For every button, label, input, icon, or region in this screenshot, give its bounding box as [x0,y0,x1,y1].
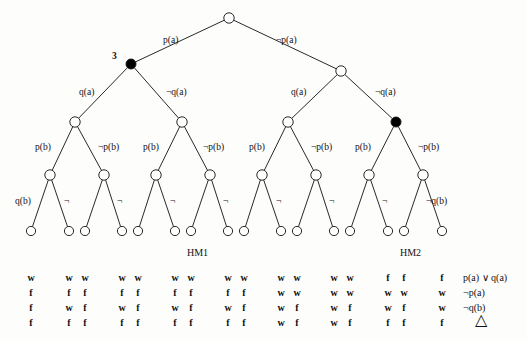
truth-cell: f [222,288,234,298]
truth-cell: w [222,303,234,313]
leaf-edge-label-le-neg-5: ¬ [276,197,281,207]
tree-node[interactable] [177,117,187,127]
truth-cell: w [344,288,356,298]
tree-node[interactable] [311,170,321,180]
truth-cell: f [291,318,303,328]
truth-cell: f [116,288,128,298]
truth-cell: f [291,303,303,313]
truth-cell: w [328,303,340,313]
tree-edge [139,180,154,227]
tree-node[interactable] [133,226,142,235]
tree-node[interactable] [117,226,126,235]
truth-cell: f [79,318,91,328]
leaf-edge-label-le-not-qb: ¬q(b) [426,197,447,207]
truth-cell: w [222,273,234,283]
leaf-edge-label-le-neg-2: ¬ [117,197,122,207]
truth-cell: f [25,318,37,328]
truth-cell: f [382,318,394,328]
tree-node[interactable] [205,170,215,180]
edge-label-el-pa: p(a) [163,36,178,46]
truth-cell: f [222,318,234,328]
truth-cell: w [25,273,37,283]
truth-cell: w [398,288,410,298]
tree-node[interactable] [364,170,374,180]
truth-cell: f [169,288,181,298]
truth-cell: w [63,273,75,283]
edge-label-el-not-qa-1: ¬q(a) [166,88,187,98]
edge-label-el-not-pa: ¬p(a) [276,36,297,46]
edge-label-el-qa-1: q(a) [79,88,94,98]
tree-node-marked[interactable] [391,117,401,127]
truth-cell: w [169,273,181,283]
truth-cell: f [116,318,128,328]
edge-label-el-not-pb-1: ¬p(b) [98,143,119,153]
tree-node[interactable] [276,226,285,235]
tree-edge [245,180,260,227]
truth-cell: f [132,303,144,313]
tree-edge [351,180,367,227]
truth-cell: f [398,318,410,328]
tree-node[interactable] [99,170,109,180]
tree-node[interactable] [257,170,267,180]
tree-node[interactable] [64,226,73,235]
tree-node[interactable] [329,226,338,235]
truth-cell: w [291,273,303,283]
truth-cell: f [382,273,394,283]
tree-node[interactable] [151,170,161,180]
truth-cell: w [116,303,128,313]
tree-edge [192,180,208,227]
truth-cell: w [344,273,356,283]
tree-node[interactable] [383,226,392,235]
leaf-edge-label-le-neg-3: ¬ [170,197,175,207]
tree-node[interactable] [80,226,89,235]
tree-node[interactable] [418,170,428,180]
truth-cell: w [63,303,75,313]
tree-node[interactable] [70,117,80,127]
truth-cell: f [238,318,250,328]
truth-cell: w [116,273,128,283]
leaf-edge-label-le-neg-4: ¬ [223,197,228,207]
truth-cell: f [25,303,37,313]
tree-edge [298,180,314,227]
tree-node[interactable] [45,170,55,180]
truth-cell: f [436,318,448,328]
tree-node[interactable] [345,226,354,235]
tableau-tree [0,0,527,250]
truth-cell: f [344,318,356,328]
truth-cell: w [185,273,197,283]
tree-edge [52,127,73,171]
tree-node[interactable] [170,226,179,235]
truth-cell: w [275,303,287,313]
tree-edge [86,180,102,227]
tree-node[interactable] [399,226,408,235]
truth-cell: f [398,303,410,313]
tree-node[interactable] [223,226,232,235]
truth-cell: w [328,318,340,328]
truth-cell: w [238,273,250,283]
truth-cell: w [436,288,448,298]
truth-cell: f [63,318,75,328]
truth-cell: f [436,273,448,283]
tree-node[interactable] [239,226,248,235]
truth-cell: f [79,303,91,313]
leaf-edge-label-le-neg-7: ¬ [382,197,387,207]
truth-cell: w [275,318,287,328]
row-formula-label: ¬p(a) [463,288,485,298]
tree-node[interactable] [336,66,346,76]
tree-node[interactable] [26,226,35,235]
tree-node[interactable] [437,226,446,235]
tree-node[interactable] [292,226,301,235]
truth-cell: w [328,288,340,298]
truth-cell: w [275,288,287,298]
tree-node[interactable] [224,13,234,23]
truth-cell: w [382,288,394,298]
edge-label-el-not-pb-2: ¬p(b) [203,143,224,153]
triangle-glyph: △ [475,312,487,328]
truth-cell: f [169,318,181,328]
truth-cell: f [63,288,75,298]
tree-node[interactable] [283,117,293,127]
truth-cell: w [436,303,448,313]
truth-cell: f [25,288,37,298]
tree-node-marked[interactable] [126,59,136,69]
tree-node[interactable] [186,226,195,235]
